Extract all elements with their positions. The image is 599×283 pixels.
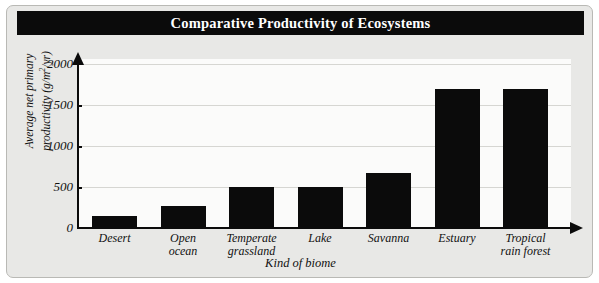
bar bbox=[298, 187, 343, 228]
x-axis-arrow-icon bbox=[570, 222, 583, 234]
bar bbox=[503, 89, 548, 228]
x-axis-tick-label-line: rain forest bbox=[481, 245, 571, 258]
gridline bbox=[79, 146, 571, 147]
bar bbox=[229, 187, 274, 228]
page-title: Comparative Productivity of Ecosystems bbox=[171, 15, 431, 32]
y-axis-tick-mark bbox=[77, 187, 82, 189]
x-axis-tick-label-line: grassland bbox=[207, 245, 297, 258]
bar bbox=[435, 89, 480, 228]
x-axis-tick-label: Tropicalrain forest bbox=[481, 232, 571, 258]
bar bbox=[161, 206, 206, 228]
chart-figure: Comparative Productivity of Ecosystems A… bbox=[6, 5, 593, 278]
x-axis-line bbox=[77, 227, 572, 229]
y-axis-tick-mark bbox=[77, 105, 82, 107]
gridline bbox=[79, 64, 571, 65]
y-axis-tick-mark bbox=[77, 146, 82, 148]
y-axis-tick-label: 2000 bbox=[27, 56, 73, 72]
y-axis-arrow-icon bbox=[72, 52, 84, 65]
chart-title-banner: Comparative Productivity of Ecosystems bbox=[17, 11, 584, 35]
y-axis-tick-label: 500 bbox=[27, 179, 73, 195]
y-axis-tick-labels: 2000150010005000 bbox=[23, 6, 73, 278]
y-axis-tick-label: 1500 bbox=[27, 97, 73, 113]
gridline bbox=[79, 105, 571, 106]
plot-area bbox=[79, 59, 571, 228]
bar bbox=[366, 173, 411, 228]
y-axis-tick-label: 0 bbox=[27, 220, 73, 236]
x-axis-title: Kind of biome bbox=[7, 256, 593, 271]
y-axis-tick-label: 1000 bbox=[27, 138, 73, 154]
